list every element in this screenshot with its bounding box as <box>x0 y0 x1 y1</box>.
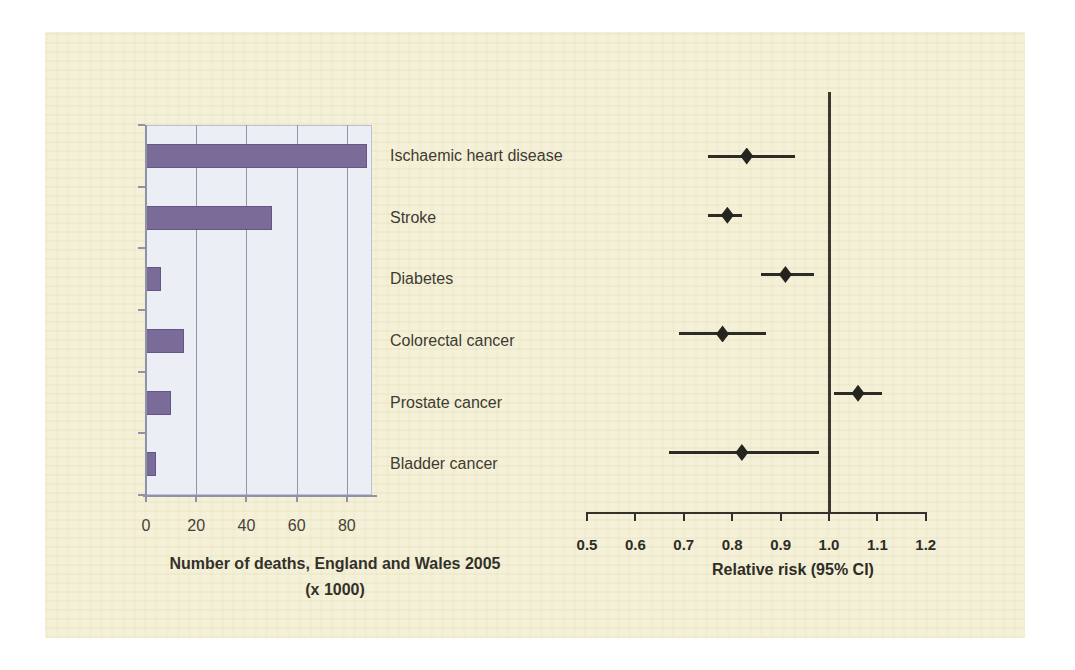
bar-gridline <box>347 125 348 495</box>
forest-x-axis <box>587 512 926 514</box>
forest-point-diamond <box>716 325 729 342</box>
forest-x-tick-label: 0.5 <box>567 536 607 553</box>
bar-3 <box>146 329 184 353</box>
screenshot-root: Number of deaths, England and Wales 2005… <box>0 0 1075 670</box>
forest-x-tick-label: 0.9 <box>761 536 801 553</box>
forest-x-tick <box>925 512 927 521</box>
category-label: Diabetes <box>390 268 625 290</box>
category-label: Ischaemic heart disease <box>390 145 625 167</box>
figure-canvas: Number of deaths, England and Wales 2005… <box>0 0 1075 670</box>
bar-y-tick <box>138 247 145 249</box>
bar-x-tick <box>145 495 147 502</box>
bar-x-tick-label: 60 <box>279 517 315 535</box>
forest-point-diamond <box>779 266 792 283</box>
forest-x-tick <box>780 512 782 521</box>
bar-y-axis <box>145 125 147 497</box>
bar-chart-title-line2: (x 1000) <box>125 581 545 599</box>
bar-4 <box>146 391 171 415</box>
forest-point-diamond <box>852 385 865 402</box>
bar-gridline <box>297 125 298 495</box>
bar-1 <box>146 206 272 230</box>
bar-gridline <box>246 125 247 495</box>
bar-5 <box>146 452 156 476</box>
forest-x-tick <box>828 512 830 521</box>
bar-x-tick-label: 20 <box>178 517 214 535</box>
bar-0 <box>146 144 367 168</box>
forest-x-tick <box>683 512 685 521</box>
bar-x-tick-label: 80 <box>329 517 365 535</box>
forest-x-tick-label: 1.1 <box>857 536 897 553</box>
forest-x-tick-label: 0.8 <box>712 536 752 553</box>
bar-gridline <box>196 125 197 495</box>
bar-x-tick-label: 0 <box>128 517 164 535</box>
forest-point-diamond <box>740 148 753 165</box>
bar-plot-area <box>146 125 372 495</box>
bar-y-tick <box>138 432 145 434</box>
bar-x-tick <box>296 495 298 502</box>
bar-2 <box>146 267 161 291</box>
forest-point-diamond <box>721 207 734 224</box>
bar-x-tick-label: 40 <box>228 517 264 535</box>
forest-x-tick <box>634 512 636 521</box>
forest-x-tick-label: 1.2 <box>906 536 946 553</box>
bar-y-tick <box>138 186 145 188</box>
forest-x-tick <box>876 512 878 521</box>
forest-point-diamond <box>735 444 748 461</box>
bar-x-tick <box>346 495 348 502</box>
forest-x-tick-label: 1.0 <box>809 536 849 553</box>
category-label: Stroke <box>390 207 625 229</box>
forest-reference-line <box>828 92 831 514</box>
bar-chart-title-line1: Number of deaths, England and Wales 2005 <box>125 555 545 573</box>
bar-y-tick <box>138 371 145 373</box>
bar-y-tick <box>138 309 145 311</box>
forest-x-tick-label: 0.7 <box>664 536 704 553</box>
category-label: Prostate cancer <box>390 392 625 414</box>
bar-x-tick <box>245 495 247 502</box>
forest-x-tick-label: 0.6 <box>615 536 655 553</box>
category-label: Colorectal cancer <box>390 330 625 352</box>
bar-x-axis <box>143 495 377 497</box>
bar-y-tick <box>138 124 145 126</box>
forest-x-tick <box>586 512 588 521</box>
category-label: Bladder cancer <box>390 453 625 475</box>
forest-x-tick <box>731 512 733 521</box>
bar-x-tick <box>195 495 197 502</box>
forest-x-axis-label: Relative risk (95% CI) <box>643 561 943 579</box>
